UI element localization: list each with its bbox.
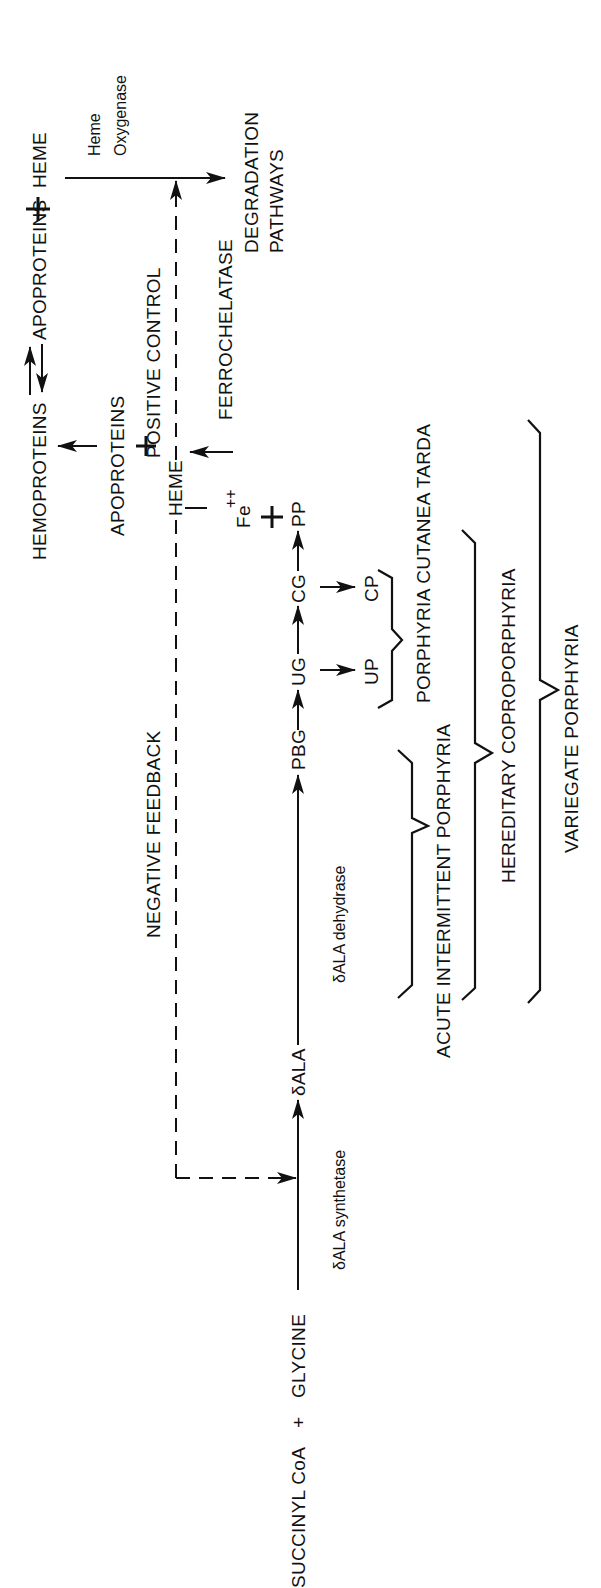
negative-feedback-label: NEGATIVE FEEDBACK xyxy=(143,731,164,938)
heme-top-label: HEME xyxy=(29,132,50,188)
hemoproteins-label: HEMOPROTEINS xyxy=(29,402,50,560)
plus-sign: + xyxy=(288,1417,309,1428)
cg-label: CG xyxy=(288,574,309,603)
heme-label: HEME xyxy=(165,460,186,516)
dala-synthetase-label: δALA synthetase xyxy=(331,1150,348,1270)
pp-label: PP xyxy=(288,501,309,527)
degradation-label-2: PATHWAYS xyxy=(266,149,287,253)
pbg-label: PBG xyxy=(288,729,309,770)
disease-label-pct: PORPHYRIA CUTANEA TARDA xyxy=(413,424,434,703)
hcp-brace xyxy=(462,530,492,1000)
heme-pathway-diagram: SUCCINYL CoA + GLYCINE δALA synthetase δ… xyxy=(0,0,601,1588)
ug-label: UG xyxy=(288,657,309,686)
disease-label-hcp: HEREDITARY COPROPORPHYRIA xyxy=(498,568,519,883)
vp-brace xyxy=(528,420,558,1003)
heme-oxygenase-label-2: Oxygenase xyxy=(112,75,129,156)
glycine-label: GLYCINE xyxy=(288,1314,309,1398)
cp-label: CP xyxy=(361,575,382,602)
dala-dehydrase-label: δALA dehydrase xyxy=(331,865,348,983)
positive-control-label: POSITIVE CONTROL xyxy=(143,267,164,458)
fe-charge: ++ xyxy=(222,489,239,508)
succinyl-coa-label: SUCCINYL CoA xyxy=(288,1447,309,1588)
degradation-label-1: DEGRADATION xyxy=(241,112,262,253)
ferrochelatase-label: FERROCHELATASE xyxy=(215,239,236,420)
dala-label: δALA xyxy=(288,1048,309,1096)
up-label: UP xyxy=(361,658,382,685)
heme-oxygenase-label-1: Heme xyxy=(86,113,103,156)
aip-brace xyxy=(398,750,428,998)
disease-label-vp: VARIEGATE PORPHYRIA xyxy=(561,624,582,853)
apoproteins-label: APOPROTEINS xyxy=(107,395,128,536)
disease-label-aip: ACUTE INTERMITTENT PORPHYRIA xyxy=(433,724,454,1058)
